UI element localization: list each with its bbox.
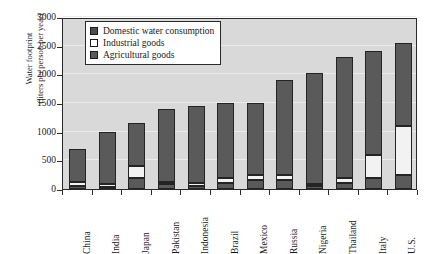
bar-segment-domestic xyxy=(69,149,86,182)
legend-label: Industrial goods xyxy=(103,37,164,49)
x-axis-label-mexico: Mexico xyxy=(259,196,269,254)
legend-swatch-icon xyxy=(90,27,98,35)
legend-label: Domestic water consumption xyxy=(103,25,214,37)
x-axis-tick-mark xyxy=(180,190,181,195)
bar-segment-agricultural xyxy=(188,186,205,189)
x-axis-tick-mark xyxy=(358,190,359,195)
bar-segment-agricultural xyxy=(128,178,145,189)
bar-segment-industrial xyxy=(69,182,86,186)
x-axis-label-nigeria: Nigeria xyxy=(318,196,328,254)
legend-item: Domestic water consumption xyxy=(90,25,214,37)
bar-segment-industrial xyxy=(99,184,116,186)
bar-segment-agricultural xyxy=(276,180,293,189)
x-axis-tick-mark xyxy=(387,190,388,195)
bar-segment-agricultural xyxy=(365,178,382,189)
bar-segment-industrial xyxy=(158,182,175,184)
bar-segment-domestic xyxy=(158,109,175,182)
bar-segment-domestic xyxy=(128,123,145,166)
bar-segment-industrial xyxy=(188,183,205,186)
x-axis-tick-mark xyxy=(62,190,63,195)
bar-segment-domestic xyxy=(99,132,116,185)
bar-segment-agricultural xyxy=(395,175,412,189)
bar-segment-agricultural xyxy=(247,180,264,189)
x-axis-label-india: India xyxy=(111,196,121,254)
bar-segment-industrial xyxy=(247,175,264,181)
legend-item: Agricultural goods xyxy=(90,49,214,61)
bar-segment-agricultural xyxy=(217,183,234,189)
y-axis-tick-label: 2500 xyxy=(18,42,56,52)
x-axis-tick-mark xyxy=(210,190,211,195)
legend-swatch-icon xyxy=(90,39,98,47)
bar-segment-domestic xyxy=(276,80,293,175)
y-axis-tick-label: 2000 xyxy=(18,70,56,80)
gridline xyxy=(63,16,416,17)
x-axis-tick-mark xyxy=(240,190,241,195)
legend-label: Agricultural goods xyxy=(103,49,175,61)
bar-segment-agricultural xyxy=(69,186,86,189)
y-axis-tick-label: 500 xyxy=(18,156,56,166)
bar-segment-domestic xyxy=(188,106,205,183)
x-axis-label-pakistan: Pakistan xyxy=(171,196,181,254)
x-axis-tick-mark xyxy=(328,190,329,195)
y-axis-tick-label: 0 xyxy=(18,185,56,195)
x-axis-tick-mark xyxy=(92,190,93,195)
bar-segment-agricultural xyxy=(306,186,323,189)
bar-segment-domestic xyxy=(217,103,234,178)
y-axis-tick-label: 1500 xyxy=(18,99,56,109)
bar-segment-industrial xyxy=(276,175,293,181)
x-axis-label-us: U.S. xyxy=(407,196,417,254)
x-axis-tick-mark xyxy=(269,190,270,195)
x-axis-label-indonesia: Indonesia xyxy=(200,196,210,254)
x-axis-tick-mark xyxy=(299,190,300,195)
bar-segment-domestic xyxy=(336,57,353,178)
bar-segment-industrial xyxy=(395,126,412,175)
y-axis-tick-label: 1000 xyxy=(18,128,56,138)
x-axis-label-italy: Italy xyxy=(378,196,388,254)
x-axis-label-brazil: Brazil xyxy=(230,196,240,254)
bar-segment-domestic xyxy=(247,103,264,175)
bar-segment-domestic xyxy=(365,51,382,154)
legend-item: Industrial goods xyxy=(90,37,214,49)
bar-segment-domestic xyxy=(395,43,412,126)
x-axis-label-thailand: Thailand xyxy=(348,196,358,254)
bar-segment-industrial xyxy=(365,155,382,178)
bar-segment-agricultural xyxy=(99,187,116,189)
chart-legend: Domestic water consumptionIndustrial goo… xyxy=(85,21,221,65)
bar-segment-industrial xyxy=(217,178,234,184)
bar-segment-domestic xyxy=(306,73,323,184)
x-axis-tick-mark xyxy=(121,190,122,195)
legend-swatch-icon xyxy=(90,51,98,59)
x-axis-tick-mark xyxy=(417,190,418,195)
bar-segment-agricultural xyxy=(336,183,353,189)
x-axis-label-china: China xyxy=(82,196,92,254)
water-footprint-chart: Water footprint (liters per person per y… xyxy=(0,0,433,254)
x-axis-label-japan: Japan xyxy=(141,196,151,254)
bar-segment-agricultural xyxy=(158,184,175,189)
x-axis-label-russia: Russia xyxy=(289,196,299,254)
bar-segment-industrial xyxy=(128,166,145,177)
y-axis-tick-label: 3000 xyxy=(18,13,56,23)
bar-segment-industrial xyxy=(336,178,353,183)
x-axis-tick-mark xyxy=(151,190,152,195)
